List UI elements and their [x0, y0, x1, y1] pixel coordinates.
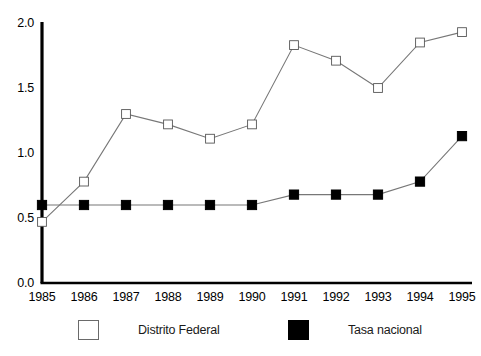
legend-label: Tasa nacional [348, 323, 422, 337]
series-tasa-nacional [37, 132, 466, 210]
x-axis-tick-label: 1990 [229, 291, 275, 304]
data-point-marker [121, 200, 130, 209]
y-axis-tick-label: 2.0 [4, 17, 34, 30]
data-point-marker [163, 200, 172, 209]
x-axis-tick-label: 1985 [19, 291, 65, 304]
data-point-marker [289, 190, 298, 199]
x-axis-tick-label: 1991 [271, 291, 317, 304]
chart-legend: Distrito Federal Tasa nacional [0, 318, 481, 352]
x-axis-tick-label: 1993 [355, 291, 401, 304]
legend-swatch-open-square-icon [78, 320, 99, 340]
data-point-marker [37, 200, 46, 209]
data-point-marker [247, 200, 256, 209]
x-axis-tick-label: 1989 [187, 291, 233, 304]
data-point-marker [373, 190, 382, 199]
x-axis-tick-label: 1994 [397, 291, 443, 304]
legend-label: Distrito Federal [138, 323, 220, 337]
data-point-marker [80, 177, 89, 186]
data-point-marker [374, 84, 383, 93]
x-axis-tick-label: 1987 [103, 291, 149, 304]
data-point-marker [415, 177, 424, 186]
x-axis-tick-label: 1995 [439, 291, 481, 304]
data-point-marker [164, 120, 173, 129]
data-point-marker [457, 132, 466, 141]
y-axis-tick-label: 0.0 [4, 277, 34, 290]
data-point-marker [458, 28, 467, 37]
data-point-marker [332, 56, 341, 65]
data-point-marker [290, 41, 299, 50]
x-axis-tick-label: 1988 [145, 291, 191, 304]
data-point-marker [205, 200, 214, 209]
y-axis-tick-label: 0.5 [4, 212, 34, 225]
data-point-marker [416, 38, 425, 47]
x-axis-tick-label: 1986 [61, 291, 107, 304]
data-point-marker [79, 200, 88, 209]
data-point-marker [206, 134, 215, 143]
legend-swatch-filled-square-icon [288, 320, 309, 340]
data-point-marker [122, 110, 131, 119]
series-distrito-federal [38, 28, 467, 227]
y-axis-tick-label: 1.0 [4, 147, 34, 160]
data-point-marker [38, 218, 47, 227]
y-axis-tick-label: 1.5 [4, 82, 34, 95]
chart-figure: 2.01.51.00.50.0 198519861987198819891990… [0, 0, 481, 356]
x-axis-tick-label: 1992 [313, 291, 359, 304]
data-point-marker [248, 120, 257, 129]
data-point-marker [331, 190, 340, 199]
series-line [42, 136, 462, 205]
